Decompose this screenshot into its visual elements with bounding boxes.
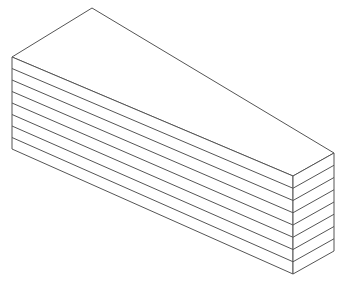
diagram-canvas: [0, 0, 345, 286]
layered-block-drawing: [0, 0, 345, 286]
